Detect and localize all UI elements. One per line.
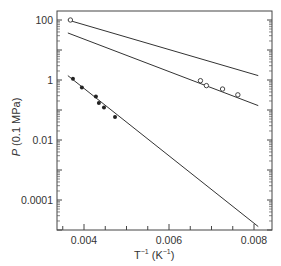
plot-frame [57,11,272,230]
x-tick-label: 0.006 [156,234,182,246]
y-axis-label-unit: (0.1 MPa) [10,98,22,149]
chart: 10010.010.00010.0040.0060.008 [0,0,281,266]
x-axis-label-unit: (K [149,249,163,261]
open-data-point [220,87,224,91]
filled-data-point [71,77,75,81]
filled-data-point [80,86,84,90]
y-axis-label: P (0.1 MPa) [10,72,24,182]
open-data-point [198,78,202,82]
x-axis-label-close: ) [171,249,175,261]
y-tick-label: 0.01 [33,134,54,146]
open-data-point [204,83,208,87]
y-axis-label-symbol: P [10,149,22,156]
x-axis-label-t: T [134,249,141,261]
open-data-point [236,93,240,97]
x-axis-label-exp2: −1 [163,248,171,255]
filled-data-point [102,106,106,110]
y-tick-label: 0.0001 [21,194,53,206]
x-axis-label-exp: −1 [141,248,149,255]
x-axis-label: T−1 (K−1) [134,248,174,261]
filled-data-point [94,95,98,99]
y-tick-label: 100 [35,14,53,26]
x-tick-label: 0.004 [71,234,97,246]
fit-line [68,20,258,76]
filled-data-point [97,101,101,105]
open-data-point [68,18,72,22]
filled-data-point [113,115,117,119]
y-tick-label: 1 [47,74,53,86]
x-tick-label: 0.008 [241,234,267,246]
